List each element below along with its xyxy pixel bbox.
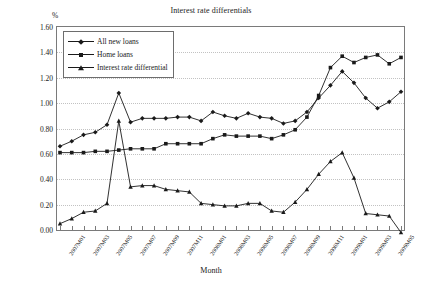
x-tick-label: 2009M01 bbox=[350, 234, 368, 257]
data-point-marker bbox=[340, 54, 344, 58]
data-point-marker bbox=[376, 53, 380, 57]
y-tick-label: 1.00 bbox=[23, 99, 53, 108]
data-point-marker bbox=[152, 116, 157, 121]
y-axis-tick-labels: 0.000.200.400.600.801.001.201.401.60 bbox=[20, 26, 53, 231]
y-tick-label: 1.60 bbox=[23, 23, 53, 32]
data-point-marker bbox=[199, 142, 203, 146]
data-point-marker bbox=[58, 151, 62, 155]
data-point-marker bbox=[105, 201, 109, 205]
data-point-marker bbox=[399, 56, 403, 60]
data-point-marker bbox=[305, 115, 309, 119]
legend-marker-triangle-icon bbox=[68, 63, 94, 73]
data-point-marker bbox=[117, 118, 121, 122]
data-point-marker bbox=[282, 133, 286, 137]
data-point-marker bbox=[293, 128, 297, 132]
x-tick-label: 2008M09 bbox=[303, 234, 321, 257]
legend-item-label: All new loans bbox=[97, 37, 139, 46]
data-point-marker bbox=[188, 142, 192, 146]
data-point-marker bbox=[152, 147, 156, 151]
data-point-marker bbox=[117, 148, 121, 152]
x-tick-label: 2007M07 bbox=[139, 234, 157, 257]
chart-legend: All new loansHome loansInterest rate dif… bbox=[63, 31, 174, 78]
data-point-marker bbox=[235, 134, 239, 138]
chart-title: Interest rate differentials bbox=[0, 6, 422, 15]
y-tick-label: 0.40 bbox=[23, 175, 53, 184]
data-point-marker bbox=[93, 150, 97, 154]
y-tick-label: 0.60 bbox=[23, 149, 53, 158]
data-point-marker bbox=[328, 159, 332, 163]
x-tick-label: 2007M05 bbox=[115, 234, 133, 257]
data-point-marker bbox=[141, 147, 145, 151]
data-point-marker bbox=[364, 211, 368, 215]
data-point-marker bbox=[93, 209, 97, 213]
y-tick-label: 1.20 bbox=[23, 73, 53, 82]
interest-rate-differentials-chart: Interest rate differentials % 0.000.200.… bbox=[0, 0, 422, 286]
data-point-marker bbox=[317, 94, 321, 98]
data-point-marker bbox=[175, 115, 180, 120]
legend-item-label: Home loans bbox=[97, 50, 133, 59]
x-tick-label: 2007M03 bbox=[91, 234, 109, 257]
x-tick-label: 2007M01 bbox=[68, 234, 86, 257]
data-point-marker bbox=[187, 115, 192, 120]
data-point-marker bbox=[340, 150, 344, 154]
data-point-marker bbox=[329, 66, 333, 70]
data-point-marker bbox=[281, 121, 286, 126]
data-point-marker bbox=[128, 120, 133, 125]
legend-item[interactable]: Home loans bbox=[68, 48, 168, 61]
data-point-marker bbox=[176, 142, 180, 146]
x-axis-tick-labels: 2007M012007M032007M052007M072007M092007M… bbox=[0, 232, 422, 268]
data-point-marker bbox=[140, 116, 145, 121]
data-point-marker bbox=[246, 134, 250, 138]
x-tick-label: 2008M01 bbox=[209, 234, 227, 257]
data-point-marker bbox=[116, 91, 121, 96]
data-point-marker bbox=[81, 133, 86, 138]
data-point-marker bbox=[270, 137, 274, 141]
data-point-marker bbox=[352, 176, 356, 180]
data-point-marker bbox=[164, 116, 169, 121]
x-axis-title: Month bbox=[0, 266, 422, 275]
data-point-marker bbox=[223, 133, 227, 137]
legend-item-label: Interest rate differential bbox=[97, 63, 168, 72]
data-point-marker bbox=[246, 111, 251, 116]
y-tick-label: 0.20 bbox=[23, 200, 53, 209]
y-axis-unit-label: % bbox=[52, 11, 58, 20]
x-tick-label: 2008M05 bbox=[256, 234, 274, 257]
data-point-marker bbox=[258, 115, 263, 120]
x-tick-label: 2009M03 bbox=[374, 234, 392, 257]
legend-item[interactable]: All new loans bbox=[68, 35, 168, 48]
legend-marker-diamond-icon bbox=[68, 37, 94, 47]
data-point-marker bbox=[352, 61, 356, 65]
y-tick-label: 0.80 bbox=[23, 124, 53, 133]
x-tick-label: 2007M11 bbox=[185, 234, 203, 256]
x-tick-label: 2008M11 bbox=[327, 234, 345, 256]
data-point-marker bbox=[58, 144, 63, 149]
data-point-marker bbox=[364, 56, 368, 60]
data-point-marker bbox=[269, 209, 273, 213]
data-point-marker bbox=[93, 130, 98, 135]
data-point-marker bbox=[222, 114, 227, 119]
x-tick-label: 2008M07 bbox=[280, 234, 298, 257]
data-point-marker bbox=[164, 142, 168, 146]
y-tick-label: 1.40 bbox=[23, 48, 53, 57]
data-point-marker bbox=[129, 147, 133, 151]
legend-item[interactable]: Interest rate differential bbox=[68, 61, 168, 74]
data-point-marker bbox=[258, 134, 262, 138]
legend-marker-square-icon bbox=[68, 50, 94, 60]
data-point-marker bbox=[70, 216, 74, 220]
data-point-marker bbox=[69, 139, 74, 144]
data-point-marker bbox=[82, 151, 86, 155]
data-point-marker bbox=[211, 137, 215, 141]
x-tick-label: 2008M03 bbox=[233, 234, 251, 257]
data-point-marker bbox=[387, 62, 391, 66]
data-point-marker bbox=[269, 116, 274, 121]
data-point-marker bbox=[234, 116, 239, 121]
x-tick-label: 2009M05 bbox=[397, 234, 415, 257]
data-point-marker bbox=[70, 151, 74, 155]
data-point-marker bbox=[105, 122, 110, 127]
data-point-marker bbox=[105, 150, 109, 154]
series-line bbox=[60, 121, 401, 233]
x-tick-label: 2007M09 bbox=[162, 234, 180, 257]
